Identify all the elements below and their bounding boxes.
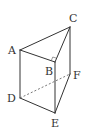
vertex-label-A: A <box>7 44 17 57</box>
edge-AC <box>20 27 70 50</box>
edge-DE <box>20 98 55 113</box>
vertex-label-F: F <box>73 69 81 82</box>
triangular-prism-diagram: A B C D E F <box>0 0 88 129</box>
edge-BC <box>55 27 70 62</box>
vertex-label-D: D <box>7 92 16 105</box>
vertex-label-E: E <box>51 117 59 129</box>
vertex-label-C: C <box>69 12 77 25</box>
vertex-label-B: B <box>45 65 53 78</box>
edge-AB <box>20 50 55 62</box>
